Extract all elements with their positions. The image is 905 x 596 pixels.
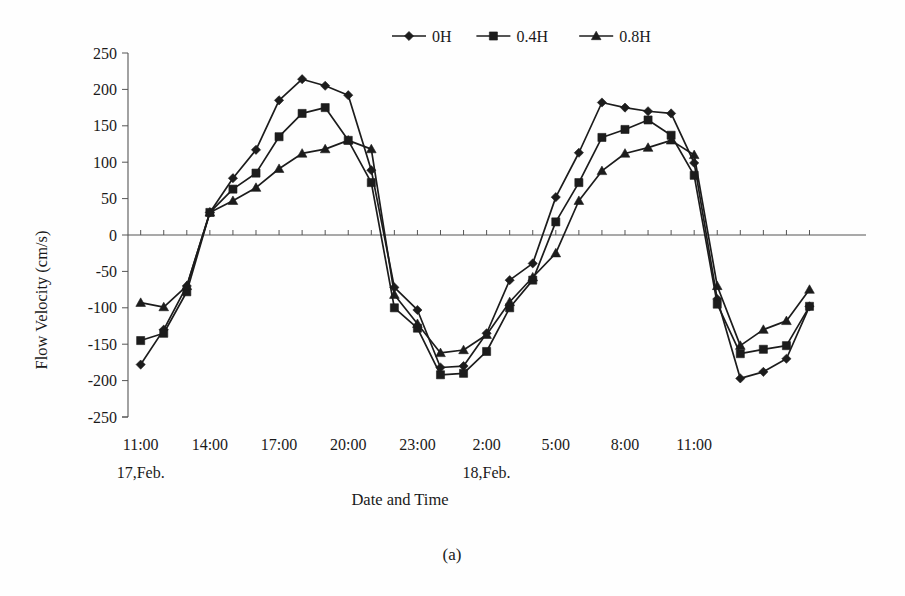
x-axis-tick-label: 17:00	[261, 436, 297, 453]
legend-label: 0H	[432, 28, 452, 45]
figure-caption: (a)	[443, 545, 462, 564]
y-axis-tick-label: 100	[93, 154, 117, 171]
y-axis-tick-label: 50	[101, 190, 117, 207]
legend-marker-square	[489, 32, 497, 40]
data-point-marker	[229, 185, 237, 193]
x-axis-date-label: 18,Feb.	[463, 464, 511, 481]
y-axis-tick-label: -150	[88, 336, 117, 353]
data-point-marker	[598, 133, 606, 141]
y-axis-tick-label: 150	[93, 117, 117, 134]
data-point-marker	[321, 104, 329, 112]
data-point-marker	[759, 367, 768, 376]
data-point-marker	[390, 304, 398, 312]
y-axis-tick-label: 0	[109, 227, 117, 244]
x-axis-title: Date and Time	[351, 490, 448, 509]
data-point-marker	[228, 196, 238, 205]
x-axis-tick-label: 8:00	[611, 436, 639, 453]
data-point-marker	[644, 116, 652, 124]
x-axis-tick-label: 2:00	[472, 436, 500, 453]
series-0-8H	[136, 136, 814, 357]
data-point-marker	[160, 329, 168, 337]
data-point-marker	[736, 350, 744, 358]
data-point-marker	[597, 98, 606, 107]
data-point-marker	[643, 107, 652, 116]
chart-series-group	[136, 75, 814, 383]
chart-axes: 250200150100500-50-100-150-200-250	[88, 45, 866, 426]
data-point-marker	[759, 345, 767, 353]
data-point-marker	[252, 169, 260, 177]
data-point-marker	[298, 109, 306, 117]
data-point-marker	[782, 342, 790, 350]
data-point-marker	[137, 337, 145, 345]
data-point-marker	[483, 347, 491, 355]
y-axis-tick-label: -100	[88, 299, 117, 316]
series-line	[141, 79, 810, 378]
chart-legend: 0H0.4H0.8H	[392, 28, 651, 45]
x-axis-tick-label: 11:00	[123, 436, 159, 453]
legend-label: 0.8H	[619, 28, 651, 45]
x-axis-tick-labels: 11:0014:0017:0020:0023:002:005:008:0011:…	[123, 436, 712, 453]
x-axis-tick-label: 23:00	[399, 436, 435, 453]
data-point-marker	[805, 285, 815, 294]
series-0H	[136, 75, 814, 383]
flow-velocity-chart: Flow Velocity (cm/s) 250200150100500-50-…	[0, 0, 905, 596]
data-point-marker	[621, 125, 629, 133]
x-axis-tick-label: 11:00	[676, 436, 712, 453]
x-axis-tick-label: 20:00	[330, 436, 366, 453]
data-point-marker	[574, 148, 583, 157]
data-point-marker	[575, 179, 583, 187]
data-point-marker	[344, 91, 353, 100]
y-axis-tick-label: 250	[93, 45, 117, 62]
x-axis-date-labels: 17,Feb.18,Feb.	[117, 464, 511, 481]
data-point-marker	[321, 81, 330, 90]
series-0-4H	[137, 104, 814, 379]
data-point-marker	[736, 374, 745, 383]
y-axis-tick-label: 200	[93, 81, 117, 98]
legend-label: 0.4H	[516, 28, 548, 45]
y-axis-title: Flow Velocity (cm/s)	[32, 230, 51, 369]
y-axis-tick-label: -250	[88, 409, 117, 426]
data-point-marker	[551, 193, 560, 202]
figure-panel: Flow Velocity (cm/s) 250200150100500-50-…	[0, 0, 905, 596]
data-point-marker	[367, 179, 375, 187]
data-point-marker	[136, 298, 146, 307]
x-axis-tick-label: 14:00	[192, 436, 228, 453]
x-axis-tick-label: 5:00	[542, 436, 570, 453]
data-point-marker	[436, 371, 444, 379]
data-point-marker	[713, 300, 721, 308]
data-point-marker	[460, 369, 468, 377]
y-axis-tick-label: -200	[88, 372, 117, 389]
y-axis-tick-label: -50	[96, 263, 117, 280]
data-point-marker	[551, 248, 561, 257]
x-axis-date-label: 17,Feb.	[117, 464, 165, 481]
data-point-marker	[620, 103, 629, 112]
data-point-marker	[667, 109, 676, 118]
data-point-marker	[274, 164, 284, 173]
data-point-marker	[782, 354, 791, 363]
data-point-marker	[805, 302, 813, 310]
data-point-marker	[552, 218, 560, 226]
data-point-marker	[275, 133, 283, 141]
data-point-marker	[136, 360, 145, 369]
data-point-marker	[459, 345, 469, 354]
legend-marker-diamond	[404, 31, 413, 40]
